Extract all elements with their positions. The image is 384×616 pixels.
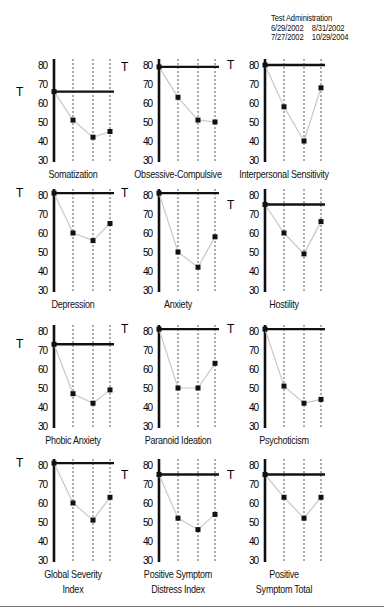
line-chart: T304050607080 xyxy=(211,48,335,166)
data-point-marker xyxy=(157,472,162,477)
data-point-marker xyxy=(319,397,324,402)
data-point-marker xyxy=(282,231,287,236)
line-chart: T304050607080 xyxy=(211,448,335,566)
y-tick-label: 30 xyxy=(38,155,49,166)
y-axis-label: T xyxy=(121,468,129,482)
y-tick-label: 50 xyxy=(249,117,260,128)
chart-panel: T304050607080Interpersonal Sensitivity xyxy=(211,48,335,182)
chart-panel: T304050607080Hostility xyxy=(211,178,335,312)
data-point-marker xyxy=(263,472,268,477)
y-tick-label: 30 xyxy=(38,285,49,296)
score-trend-line xyxy=(54,463,110,520)
line-chart: T304050607080 xyxy=(211,314,335,432)
legend-date-2: 7/27/2002 xyxy=(271,33,312,43)
y-tick-label: 80 xyxy=(38,60,49,71)
data-point-marker xyxy=(196,265,201,270)
y-tick-label: 60 xyxy=(38,98,49,109)
chart-title: Positive Symptom xyxy=(133,568,223,581)
score-trend-line xyxy=(159,193,215,267)
y-axis-label: T xyxy=(227,58,235,72)
data-point-marker xyxy=(91,518,96,523)
y-tick-label: 30 xyxy=(38,555,49,566)
chart-title: Index xyxy=(28,583,118,596)
y-tick-label: 40 xyxy=(249,536,260,547)
y-tick-label: 50 xyxy=(249,247,260,258)
score-trend-line xyxy=(265,205,321,254)
data-point-marker xyxy=(282,104,287,109)
data-point-marker xyxy=(176,386,181,391)
y-tick-label: 40 xyxy=(143,136,154,147)
y-tick-label: 40 xyxy=(249,136,260,147)
y-axis-label: T xyxy=(121,60,129,74)
score-trend-line xyxy=(265,475,321,519)
data-point-marker xyxy=(176,516,181,521)
data-point-marker xyxy=(52,342,57,347)
y-tick-label: 50 xyxy=(143,383,154,394)
y-tick-label: 60 xyxy=(249,364,260,375)
y-tick-label: 50 xyxy=(143,117,154,128)
y-tick-label: 40 xyxy=(143,402,154,413)
chart-title: Symptom Total xyxy=(239,583,329,596)
score-trend-line xyxy=(159,475,215,530)
y-tick-label: 40 xyxy=(143,266,154,277)
y-tick-label: 60 xyxy=(143,498,154,509)
chart-panel: T304050607080Psychoticism xyxy=(211,314,335,448)
data-point-marker xyxy=(263,202,268,207)
chart-panel: T304050607080PositiveSymptom Total xyxy=(211,448,335,582)
y-tick-label: 50 xyxy=(38,117,49,128)
y-tick-label: 30 xyxy=(249,555,260,566)
y-tick-label: 70 xyxy=(249,479,260,490)
y-tick-label: 50 xyxy=(249,383,260,394)
data-point-marker xyxy=(52,191,57,196)
y-tick-label: 50 xyxy=(143,247,154,258)
y-axis-label: T xyxy=(16,456,24,470)
data-point-marker xyxy=(319,219,324,224)
y-axis-label: T xyxy=(227,468,235,482)
data-point-marker xyxy=(302,516,307,521)
y-tick-label: 70 xyxy=(143,79,154,90)
y-axis-label: T xyxy=(121,186,129,200)
y-tick-label: 50 xyxy=(249,517,260,528)
data-point-marker xyxy=(157,327,162,332)
y-tick-label: 60 xyxy=(38,498,49,509)
y-tick-label: 30 xyxy=(38,421,49,432)
y-tick-label: 60 xyxy=(38,364,49,375)
chart-title: Hostility xyxy=(239,298,329,311)
y-axis-label: T xyxy=(121,322,129,336)
score-trend-line xyxy=(159,329,215,388)
y-tick-label: 50 xyxy=(38,383,49,394)
y-tick-label: 70 xyxy=(38,345,49,356)
data-point-marker xyxy=(176,250,181,255)
y-tick-label: 70 xyxy=(249,209,260,220)
y-tick-label: 70 xyxy=(38,79,49,90)
data-point-marker xyxy=(71,231,76,236)
chart-title: Positive xyxy=(239,568,329,581)
y-tick-label: 40 xyxy=(249,266,260,277)
y-tick-label: 60 xyxy=(143,98,154,109)
y-tick-label: 80 xyxy=(143,60,154,71)
y-tick-label: 80 xyxy=(38,460,49,471)
y-axis-label: T xyxy=(227,198,235,212)
chart-title: Distress Index xyxy=(133,583,223,596)
data-point-marker xyxy=(302,139,307,144)
y-tick-label: 30 xyxy=(143,285,154,296)
data-point-marker xyxy=(176,95,181,100)
score-trend-line xyxy=(54,344,110,403)
y-tick-label: 70 xyxy=(143,479,154,490)
data-point-marker xyxy=(91,401,96,406)
y-tick-label: 40 xyxy=(38,136,49,147)
chart-title: Paranoid Ideation xyxy=(133,434,223,447)
data-point-marker xyxy=(282,495,287,500)
y-tick-label: 50 xyxy=(38,247,49,258)
y-tick-label: 40 xyxy=(38,536,49,547)
y-tick-label: 60 xyxy=(143,228,154,239)
y-tick-label: 60 xyxy=(249,498,260,509)
y-tick-label: 30 xyxy=(249,285,260,296)
score-trend-line xyxy=(54,193,110,241)
y-tick-label: 80 xyxy=(249,60,260,71)
line-chart: T304050607080 xyxy=(211,178,335,296)
y-axis-label: T xyxy=(16,337,24,351)
chart-title: Anxiety xyxy=(133,298,223,311)
y-tick-label: 80 xyxy=(143,326,154,337)
y-tick-label: 40 xyxy=(143,536,154,547)
